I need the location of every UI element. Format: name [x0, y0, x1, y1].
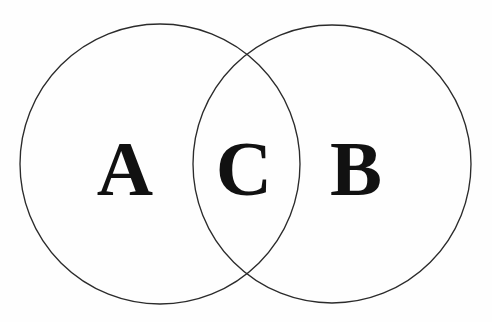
venn-diagram-figure: A C B [0, 0, 492, 322]
region-label-a: A [97, 125, 153, 212]
region-label-c: C [216, 125, 272, 212]
region-label-b: B [330, 125, 382, 212]
venn-diagram-canvas: A C B [0, 0, 492, 322]
